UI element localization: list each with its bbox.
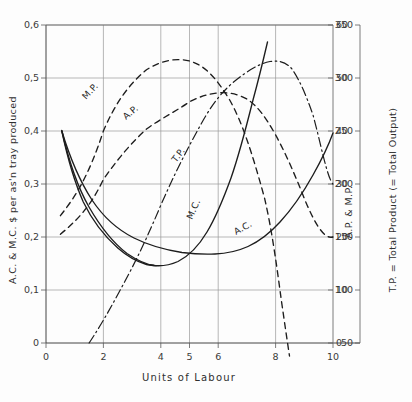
curve-average-cost [62, 131, 333, 254]
y-left-tick-6: 0,6 [24, 19, 39, 30]
y-left-tick-1: 0,1 [24, 284, 39, 295]
x-tick-3: 5 [186, 351, 192, 362]
cost-and-product-chart: 0 0,1 0,2 0,3 0,4 0,5 0,6 0 10 20 30 40 … [0, 0, 412, 402]
y-left-tick-3: 0,3 [24, 178, 39, 189]
y-right-tick-1: 100 [335, 284, 353, 295]
x-tick-6: 10 [327, 351, 339, 362]
x-axis-title: Units of Labour [142, 372, 236, 383]
curve-average-product [60, 93, 333, 238]
x-tick-4: 6 [215, 351, 221, 362]
y-right-tick-6: 350 [335, 19, 353, 30]
y-right-tick-4: 250 [335, 125, 353, 136]
curve-label-tp: T.P. [169, 146, 187, 165]
y-left-tick-0: 0 [33, 337, 39, 348]
figure-container: 0 0,1 0,2 0,3 0,4 0,5 0,6 0 10 20 30 40 … [0, 0, 412, 402]
y-right-tick-5: 300 [335, 72, 353, 83]
y-left-ticks: 0 0,1 0,2 0,3 0,4 0,5 0,6 [24, 19, 46, 348]
y-right-tick-0: 50 [341, 337, 353, 348]
y-left-tick-4: 0,4 [24, 125, 39, 136]
x-tick-0: 0 [43, 351, 49, 362]
x-tick-5: 8 [273, 351, 279, 362]
x-tick-2: 4 [158, 351, 164, 362]
curve-marginal-product [60, 60, 289, 356]
curve-label-mp: M.P. [80, 81, 100, 102]
x-ticks: 0 2 4 5 6 8 10 [43, 343, 339, 362]
y-mid-axis-title: A.P. & M.P. [343, 186, 354, 239]
y-right-axis-title: T.P. = Total Product (= Total Output) [387, 108, 398, 294]
curve-label-mc: M.C. [185, 198, 203, 221]
y-left-tick-5: 0,5 [24, 72, 39, 83]
y-right-ticks: 50 100 150 200 250 300 350 [335, 19, 360, 348]
y-left-tick-2: 0,2 [24, 231, 39, 242]
curve-label-ac: A.C. [232, 219, 254, 237]
x-tick-1: 2 [100, 351, 106, 362]
curve-marginal-cost [62, 131, 156, 266]
curve-label-ap: A.P. [121, 103, 140, 122]
y-left-axis-title: A.C. & M.C. $ per as'n tray produced [7, 96, 18, 284]
